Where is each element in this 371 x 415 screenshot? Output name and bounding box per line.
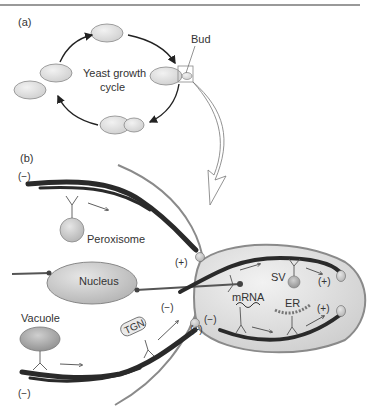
er-label: ER bbox=[285, 298, 300, 309]
peroxisome bbox=[60, 218, 84, 242]
plus-end-bud-bottom: (+) bbox=[317, 304, 330, 314]
minus-end-bottom: (−) bbox=[18, 389, 31, 399]
sv-label: SV bbox=[271, 272, 286, 283]
minus-end-mid: (−) bbox=[161, 303, 174, 313]
mrna-label: mRNA bbox=[232, 292, 264, 303]
panel-b-label: (b) bbox=[20, 153, 33, 164]
secretory-vesicle bbox=[288, 276, 300, 288]
cycle-title-line2: cycle bbox=[100, 82, 125, 93]
bud-label: Bud bbox=[191, 34, 211, 45]
zoom-arrow bbox=[193, 82, 226, 205]
figure-canvas bbox=[0, 0, 371, 415]
vacuole-label: Vacuole bbox=[21, 313, 60, 324]
nucleus-label: Nucleus bbox=[79, 276, 119, 287]
cycle-title-line1: Yeast growth bbox=[83, 68, 146, 79]
panel-a-label: (a) bbox=[18, 17, 31, 28]
minus-end-top: (−) bbox=[18, 172, 31, 182]
plus-end-bud-top: (+) bbox=[318, 277, 331, 287]
panel-a-cycle bbox=[14, 24, 195, 134]
plus-end-mother-bottom: (+) bbox=[190, 325, 203, 335]
peroxisome-label: Peroxisome bbox=[87, 234, 145, 245]
plus-end-mother-top: (+) bbox=[175, 258, 188, 268]
bud-cell bbox=[194, 245, 365, 353]
vacuole bbox=[20, 327, 60, 351]
minus-end-bud: (−) bbox=[204, 315, 217, 325]
